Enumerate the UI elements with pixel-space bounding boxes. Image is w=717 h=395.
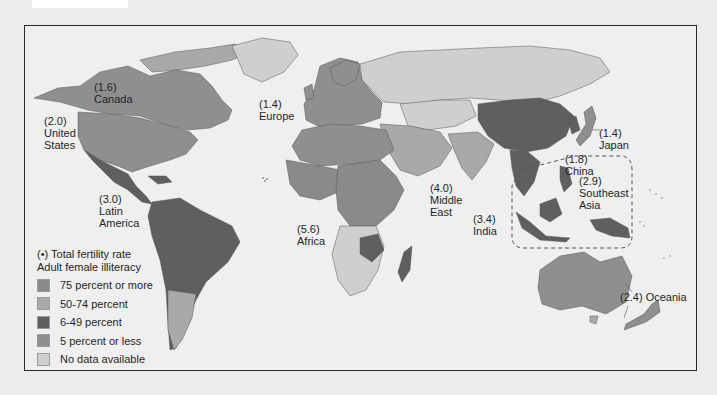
label-europe: (1.4) Europe xyxy=(259,98,294,122)
southeast-asia-mainland xyxy=(510,150,540,196)
japan-rate: (1.4) xyxy=(599,127,629,139)
europe-name: Europe xyxy=(259,110,294,122)
south-america xyxy=(148,198,240,350)
label-united-states: (2.0) United States xyxy=(44,115,76,151)
legend-item: 50-74 percent xyxy=(37,295,153,314)
legend-swatch-no-data xyxy=(37,353,50,366)
legend-item: 5 percent or less xyxy=(37,332,153,351)
sea-name-line2: Asia xyxy=(579,199,629,211)
legend-label: No data available xyxy=(60,353,145,365)
africa-name: Africa xyxy=(297,235,325,247)
india-name: India xyxy=(473,225,497,237)
label-latin-america: (3.0) Latin America xyxy=(99,193,139,229)
southern-cone xyxy=(168,290,196,350)
la-name-line2: America xyxy=(99,217,139,229)
oceania-leader-2 xyxy=(624,306,628,318)
india xyxy=(448,132,494,180)
legend-swatch-75-plus xyxy=(37,279,50,292)
caribbean xyxy=(148,176,172,184)
legend-title-illiteracy: Adult female illiteracy xyxy=(37,261,153,274)
legend-label: 75 percent or more xyxy=(60,279,153,291)
us-rate: (2.0) xyxy=(44,115,76,127)
central-east-africa xyxy=(336,160,404,226)
label-africa: (5.6) Africa xyxy=(297,223,325,247)
new-guinea xyxy=(590,218,630,238)
japan-name: Japan xyxy=(599,139,629,151)
legend-swatch-50-74 xyxy=(37,297,50,310)
europe-rate: (1.4) xyxy=(259,98,294,110)
canada-rate: (1.6) xyxy=(94,81,133,93)
legend-swatch-6-49 xyxy=(37,316,50,329)
west-africa xyxy=(286,160,340,200)
legend-label: 6-49 percent xyxy=(60,316,122,328)
north-africa xyxy=(292,124,394,166)
uk xyxy=(304,84,314,100)
legend-item: No data available xyxy=(37,350,153,369)
legend-title-fertility: (•) Total fertility rate xyxy=(37,248,153,261)
central-asia xyxy=(400,100,476,130)
label-canada: (1.6) Canada xyxy=(94,81,133,105)
madagascar xyxy=(398,246,412,282)
new-zealand xyxy=(624,300,660,330)
label-japan: (1.4) Japan xyxy=(599,127,629,151)
legend-label: 5 percent or less xyxy=(60,335,141,347)
label-china: (1.8) China xyxy=(565,153,594,177)
la-rate: (3.0) xyxy=(99,193,139,205)
australia xyxy=(538,252,632,314)
legend-item: 75 percent or more xyxy=(37,276,153,295)
label-oceania: (2.4) Oceania xyxy=(620,291,687,303)
label-middle-east: (4.0) Middle East xyxy=(430,182,462,218)
greenland xyxy=(232,38,298,82)
oceania-text: (2.4) Oceania xyxy=(620,291,687,303)
label-india: (3.4) India xyxy=(473,213,497,237)
africa-rate: (5.6) xyxy=(297,223,325,235)
me-name-line1: Middle xyxy=(430,194,462,206)
label-southeast-asia: (2.9) Southeast Asia xyxy=(579,175,629,211)
me-name-line2: East xyxy=(430,206,462,218)
russia xyxy=(360,46,610,104)
sea-rate: (2.9) xyxy=(579,175,629,187)
legend-swatch-5-or-less xyxy=(37,334,50,347)
tasmania xyxy=(590,316,598,324)
india-rate: (3.4) xyxy=(473,213,497,225)
sea-name-line1: Southeast xyxy=(579,187,629,199)
legend: (•) Total fertility rate Adult female il… xyxy=(37,248,153,369)
legend-label: 50-74 percent xyxy=(60,298,128,310)
china-rate: (1.8) xyxy=(565,153,594,165)
us-name-line2: States xyxy=(44,139,76,151)
canada-name: Canada xyxy=(94,93,133,105)
borneo xyxy=(540,198,562,222)
legend-item: 6-49 percent xyxy=(37,313,153,332)
us-name-line1: United xyxy=(44,127,76,139)
me-rate: (4.0) xyxy=(430,182,462,194)
la-name-line1: Latin xyxy=(99,205,139,217)
